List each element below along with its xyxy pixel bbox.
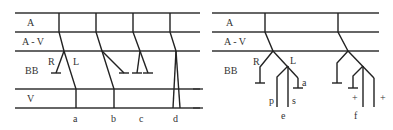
- pattern-label-f: f: [354, 110, 358, 121]
- branch-label-r-right: R: [253, 56, 260, 67]
- left-row-label-a: A: [27, 17, 35, 28]
- ladder-diagram: A A - V BB V R L a b c d A A: [0, 0, 393, 130]
- sub-label-s: s: [292, 95, 296, 106]
- sub-label-plus-1: +: [352, 92, 358, 103]
- pattern-label-b: b: [111, 113, 116, 124]
- branch-label-l: L: [73, 56, 79, 67]
- pattern-d: [170, 13, 180, 108]
- right-row-label-av: A - V: [224, 36, 247, 47]
- pattern-label-e: e: [281, 110, 286, 121]
- sub-label-p: p: [269, 95, 274, 106]
- branch-label-r: R: [48, 56, 55, 67]
- pattern-label-a: a: [73, 113, 78, 124]
- sub-label-a: a: [302, 77, 307, 88]
- pattern-label-d: d: [173, 113, 178, 124]
- pattern-c: [132, 13, 153, 73]
- branch-label-l-right: L: [290, 55, 296, 66]
- right-row-label-a: A: [226, 17, 234, 28]
- sub-label-plus-2: +: [380, 92, 386, 103]
- right-row-label-bb: BB: [224, 65, 238, 76]
- pattern-b: [96, 13, 129, 108]
- left-row-label-v: V: [27, 93, 35, 104]
- pattern-label-c: c: [139, 113, 144, 124]
- left-panel-gridlines: [15, 13, 200, 108]
- left-row-label-av: A - V: [22, 36, 45, 47]
- left-row-label-bb: BB: [25, 65, 39, 76]
